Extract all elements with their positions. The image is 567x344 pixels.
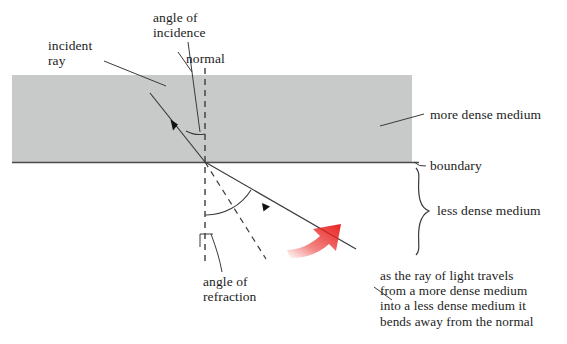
angle-of-refraction-label: angle of refraction <box>203 274 256 304</box>
dense-medium-band <box>12 75 412 162</box>
less-dense-medium-brace <box>416 168 429 255</box>
angle-of-incidence-label: angle of incidence <box>153 10 206 40</box>
less-dense-medium-label: less dense medium <box>437 203 541 218</box>
refracted-ray-arrowhead <box>262 203 270 212</box>
diagram-caption: as the ray of light travels from a more … <box>380 268 533 329</box>
boundary-label: boundary <box>430 158 482 173</box>
refraction-diagram-page: incident ray angle of incidence normal m… <box>0 0 567 344</box>
incident-ray-extension <box>205 162 266 259</box>
more-dense-medium-label: more dense medium <box>430 107 541 122</box>
red-direction-arrow <box>287 224 341 258</box>
angle-of-refraction-leader <box>211 234 222 272</box>
normal-label: normal <box>186 51 225 66</box>
angle-of-refraction-tick <box>200 234 213 247</box>
angle-of-refraction-arc <box>205 190 251 215</box>
incident-ray-label: incident ray <box>48 38 92 68</box>
